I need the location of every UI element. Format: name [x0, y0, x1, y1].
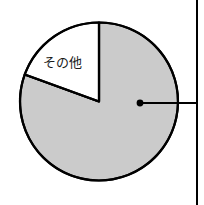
pie-slice-other-label: その他 [43, 55, 82, 70]
pie-chart-figure: その他 [0, 0, 204, 205]
callout-anchor-dot[interactable] [137, 100, 144, 107]
pie-chart-canvas: その他 [0, 0, 204, 205]
